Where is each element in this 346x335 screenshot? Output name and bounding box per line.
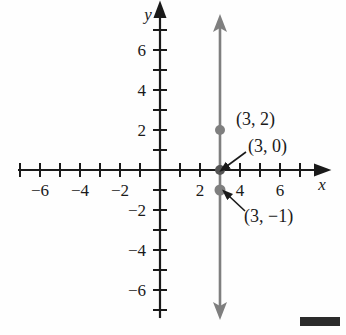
data-point-3-0 (215, 165, 225, 175)
y-axis-name: y (142, 5, 152, 24)
y-tick-label-neg6: −6 (128, 281, 146, 300)
x-tick-label-neg6: −6 (31, 181, 49, 200)
x-tick-label-pos4: 4 (236, 181, 245, 200)
x-tick-label-neg4: −4 (71, 181, 90, 200)
annotation-label-3-2: (3, 2) (236, 109, 275, 130)
y-tick-label-pos6: 6 (138, 41, 147, 60)
x-tick-label-pos2: 2 (196, 181, 205, 200)
coordinate-plane-chart: −6 −4 −2 2 4 6 6 4 2 −2 −4 −6 x y (3, 2)… (0, 0, 346, 335)
y-tick-label-neg4: −4 (128, 241, 147, 260)
annotation-arrow-3-0 (227, 152, 246, 166)
y-tick-label-pos2: 2 (138, 121, 147, 140)
annotation-label-3-0: (3, 0) (248, 136, 287, 157)
x-tick-label-pos6: 6 (276, 181, 285, 200)
annotation-label-3-neg1: (3, −1) (244, 206, 293, 227)
y-tick-label-neg2: −2 (128, 201, 146, 220)
y-tick-label-pos4: 4 (138, 81, 147, 100)
page-corner-mark (300, 317, 340, 326)
x-axis-name: x (317, 175, 326, 194)
x-tick-label-neg2: −2 (111, 181, 129, 200)
figure-container: −6 −4 −2 2 4 6 6 4 2 −2 −4 −6 x y (3, 2)… (0, 0, 346, 335)
data-point-3-neg1 (215, 185, 226, 196)
data-point-3-2 (215, 125, 225, 135)
